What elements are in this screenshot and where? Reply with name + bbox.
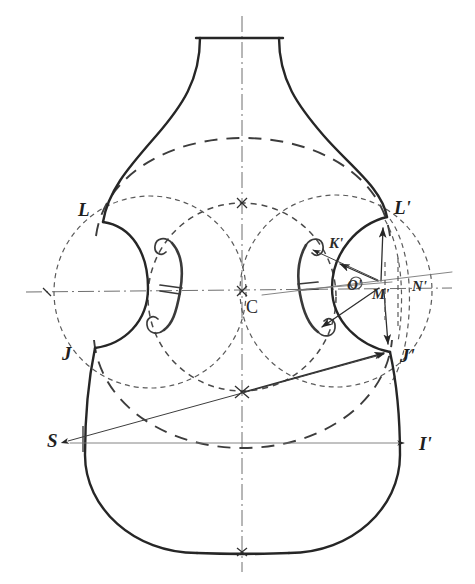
label-I-prime: I': [418, 433, 432, 454]
f-hole-left-notch-upper: [160, 285, 182, 288]
label-J-prime: J': [399, 345, 415, 366]
f-hole-left-notch-lower: [160, 291, 180, 294]
node-markers: [43, 198, 249, 556]
arrow-lower-node-to-jprime: [244, 353, 384, 392]
label-K-prime: K': [328, 235, 343, 251]
label-J: J: [61, 343, 72, 364]
f-hole-left-lower-eye: [147, 317, 164, 333]
label-L-prime: L': [393, 197, 411, 218]
ray-mprime-to-lprime: [381, 228, 383, 281]
left-lower-bout: [85, 348, 197, 553]
label-L: L: [77, 199, 90, 220]
ray-mprime-to-fhole-lower: [322, 288, 379, 327]
lower-bout-arc: [94, 340, 392, 448]
figure-canvas: L J S C L' K' O' M' N' J' I': [0, 0, 475, 584]
right-small-dashed-arc-2: [385, 220, 402, 342]
left-upper-bout: [103, 38, 200, 222]
label-O-prime: O': [347, 277, 362, 293]
arrow-s-to-jprime: [68, 354, 384, 441]
label-M-prime: M': [371, 286, 390, 302]
label-group: L J S C L' K' O' M' N' J' I': [47, 197, 432, 454]
left-c-bout: [95, 222, 148, 348]
label-C: C: [246, 297, 258, 317]
label-N-prime: N': [411, 278, 427, 294]
f-hole-right-upper-eye: [306, 239, 323, 255]
left-bout-dashed-circle: [54, 196, 246, 388]
label-S: S: [47, 430, 58, 451]
construction-diagram: L J S C L' K' O' M' N' J' I': [0, 0, 475, 584]
f-hole-right-notch-upper: [298, 282, 318, 284]
f-hole-left-upper-eye: [155, 239, 172, 255]
left-axis-tick-1: [43, 288, 51, 296]
ray-mprime-to-fhole-upper: [313, 250, 378, 280]
